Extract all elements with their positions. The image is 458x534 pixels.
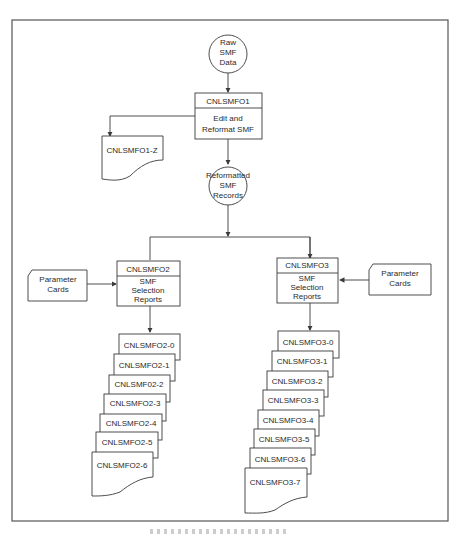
svg-text:CNLSMFO3-7: CNLSMFO3-7 xyxy=(250,478,301,487)
svg-text:Raw: Raw xyxy=(220,38,236,47)
figure-caption-clipped xyxy=(150,529,290,534)
svg-text:Records: Records xyxy=(213,191,243,200)
svg-text:SMF: SMF xyxy=(299,274,316,283)
svg-text:Reformat SMF: Reformat SMF xyxy=(202,125,254,134)
svg-text:CNLSMFO2-1: CNLSMFO2-1 xyxy=(119,361,170,370)
svg-text:CNLSMFO2-5: CNLSMFO2-5 xyxy=(102,438,153,447)
raw-smf-data-node: Raw SMF Data xyxy=(209,35,247,73)
svg-text:CNLSMFO3-5: CNLSMFO3-5 xyxy=(259,435,310,444)
svg-text:CNLSMFO2-4: CNLSMFO2-4 xyxy=(106,419,157,428)
svg-text:CNLSMFO3-2: CNLSMFO3-2 xyxy=(272,377,323,386)
svg-text:Selection: Selection xyxy=(132,286,165,295)
svg-text:Edit and: Edit and xyxy=(213,114,242,123)
caption-remnant xyxy=(150,529,290,534)
svg-text:CNLSMFO3-3: CNLSMFO3-3 xyxy=(268,396,319,405)
svg-text:CNLSMFO1: CNLSMFO1 xyxy=(206,97,250,106)
svg-text:SMF: SMF xyxy=(220,48,237,57)
svg-text:Reformatted: Reformatted xyxy=(206,171,250,180)
svg-text:SMF: SMF xyxy=(140,277,157,286)
svg-text:Data: Data xyxy=(220,58,237,67)
svg-text:SMF: SMF xyxy=(220,181,237,190)
reformatted-smf-records-node: Reformatted SMF Records xyxy=(206,167,250,205)
svg-text:CNLSMFO1-Z: CNLSMFO1-Z xyxy=(106,146,157,155)
process-cnlsmfo2: CNLSMFO2 SMF Selection Reports xyxy=(117,261,180,306)
svg-text:CNLSMFO3-0: CNLSMFO3-0 xyxy=(283,338,334,347)
report-stack-right: CNLSMFO3-0 CNLSMFO3-1 CNLSMFO3-2 CNLSMFO… xyxy=(245,331,339,513)
flowchart: Raw SMF Data CNLSMFO1 Edit and Reformat … xyxy=(0,0,458,534)
svg-text:Reports: Reports xyxy=(293,292,321,301)
svg-text:Cards: Cards xyxy=(47,285,68,294)
svg-text:Parameter: Parameter xyxy=(39,275,77,284)
svg-text:CNLSMF02-2: CNLSMF02-2 xyxy=(115,380,164,389)
svg-text:Parameter: Parameter xyxy=(381,269,419,278)
svg-text:Cards: Cards xyxy=(389,279,410,288)
svg-text:CNLSMFO3-4: CNLSMFO3-4 xyxy=(263,416,314,425)
report-stack-left: CNLSMFO2-0 CNLSMFO2-1 CNLSMF02-2 CNLSMFO… xyxy=(92,334,180,496)
svg-text:Selection: Selection xyxy=(291,283,324,292)
parameter-cards-right: Parameter Cards xyxy=(369,264,431,295)
svg-text:CNLSMFO2-6: CNLSMFO2-6 xyxy=(97,461,148,470)
svg-text:CNLSMFO3-1: CNLSMFO3-1 xyxy=(277,357,328,366)
svg-text:CNLSMFO3-6: CNLSMFO3-6 xyxy=(255,455,306,464)
svg-text:Reports: Reports xyxy=(134,295,162,304)
parameter-cards-left: Parameter Cards xyxy=(28,270,87,301)
svg-text:CNLSMFO2: CNLSMFO2 xyxy=(126,265,170,274)
process-cnlsmfo3: CNLSMFO3 SMF Selection Reports xyxy=(277,258,338,303)
svg-text:CNLSMFO2-3: CNLSMFO2-3 xyxy=(110,399,161,408)
svg-text:CNLSMFO2-0: CNLSMFO2-0 xyxy=(124,341,175,350)
process-cnlsmfo1: CNLSMFO1 Edit and Reformat SMF xyxy=(195,93,262,139)
output-cnlsmfo1-z: CNLSMFO1-Z xyxy=(102,136,163,180)
svg-text:CNLSMFO3: CNLSMFO3 xyxy=(285,261,329,270)
